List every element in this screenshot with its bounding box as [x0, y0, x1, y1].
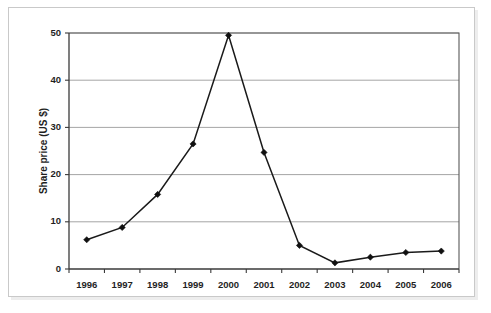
- y-tick-label: 10: [50, 215, 61, 226]
- chart-canvas: 01020304050 1996199719981999200020012002…: [0, 0, 491, 313]
- gridlines: [69, 33, 459, 222]
- y-tick-label: 20: [50, 168, 61, 179]
- figure-root: 01020304050 1996199719981999200020012002…: [0, 0, 491, 313]
- data-point-marker: [84, 237, 90, 243]
- x-tick-label: 2006: [431, 279, 452, 290]
- x-tick-label: 1997: [112, 279, 133, 290]
- data-point-marker: [403, 249, 409, 255]
- x-tick-label: 2003: [324, 279, 345, 290]
- data-point-marker: [261, 149, 267, 155]
- x-tick-label: 1998: [147, 279, 168, 290]
- data-point-marker: [296, 242, 302, 248]
- y-axis-label: Share price (US $): [38, 108, 49, 194]
- data-point-markers: [84, 32, 445, 266]
- x-tick-label: 1996: [76, 279, 97, 290]
- y-tick-label: 30: [50, 121, 61, 132]
- y-tick-label: 50: [50, 27, 61, 38]
- x-tick-labels: 1996199719981999200020012002200320042005…: [76, 279, 452, 290]
- y-tick-labels: 01020304050: [50, 27, 61, 274]
- y-tick-label: 0: [56, 263, 61, 274]
- x-tick-label: 2000: [218, 279, 239, 290]
- data-point-marker: [367, 254, 373, 260]
- x-tick-label: 1999: [183, 279, 204, 290]
- x-tick-label: 2005: [395, 279, 417, 290]
- x-tick-label: 2004: [360, 279, 382, 290]
- data-point-marker: [332, 260, 338, 266]
- line-chart: 01020304050 1996199719981999200020012002…: [0, 0, 491, 313]
- x-tick-label: 2002: [289, 279, 310, 290]
- x-tick-label: 2001: [253, 279, 275, 290]
- y-tick-label: 40: [50, 74, 61, 85]
- data-point-marker: [438, 248, 444, 254]
